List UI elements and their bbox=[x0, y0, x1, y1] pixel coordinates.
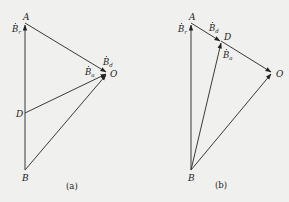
point-d-label: D bbox=[15, 109, 23, 119]
point-o-label: O bbox=[110, 69, 118, 79]
label-b-r-a: Br bbox=[11, 23, 21, 35]
vector-bo-b bbox=[191, 74, 271, 170]
label-b-d-b: Bd bbox=[208, 22, 219, 34]
point-a-label: A bbox=[22, 12, 30, 22]
vector-b-d-a bbox=[25, 23, 106, 72]
vector-bo-a bbox=[25, 75, 106, 170]
svg-text:Bd: Bd bbox=[208, 23, 219, 34]
label-b-r-b: Br bbox=[177, 23, 187, 35]
svg-text:Ba: Ba bbox=[84, 67, 95, 78]
vector-b-a-b bbox=[191, 43, 221, 170]
svg-text:Bd: Bd bbox=[102, 57, 113, 68]
point-b-label: B bbox=[187, 173, 195, 183]
label-b-d-a: Bd bbox=[102, 56, 113, 68]
point-o-label: O bbox=[276, 69, 284, 79]
label-b-a-b: Ba bbox=[222, 49, 233, 61]
svg-text:Br: Br bbox=[177, 24, 187, 35]
svg-text:Br: Br bbox=[11, 24, 21, 35]
label-b-a-a: Ba bbox=[84, 66, 95, 78]
panel-a: A O D B Br Bd Ba (a) bbox=[11, 12, 118, 191]
vector-b-a-a bbox=[25, 74, 106, 113]
point-a-label: A bbox=[188, 12, 196, 22]
point-b-label: B bbox=[21, 173, 29, 183]
svg-text:Ba: Ba bbox=[222, 50, 233, 61]
caption-b: (b) bbox=[215, 180, 227, 190]
panel-b: A D O B Br Bd Ba (b) bbox=[177, 12, 284, 190]
caption-a: (a) bbox=[66, 181, 78, 191]
vector-diagram: A O D B Br Bd Ba (a) A D O B Br bbox=[0, 0, 289, 202]
point-d-label: D bbox=[223, 32, 231, 42]
